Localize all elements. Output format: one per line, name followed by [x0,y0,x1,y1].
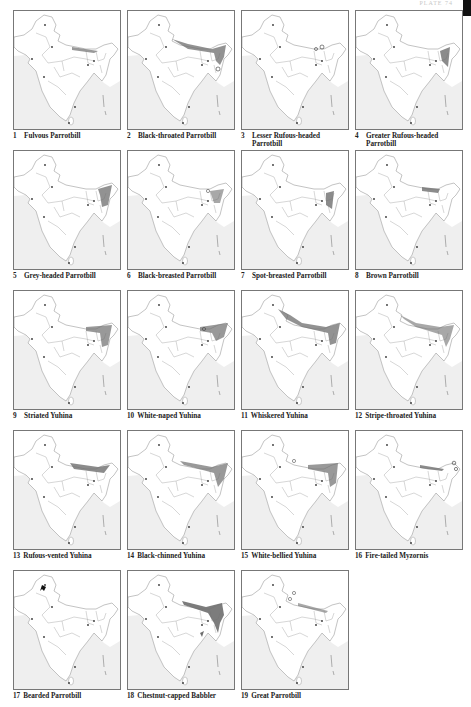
map-cell: 10White-naped Yuhina [127,290,235,421]
distribution-map [355,150,463,270]
map-number: 8 [355,273,364,281]
map-number: 11 [241,413,248,421]
species-name: Grey-headed Parrotbill [24,273,121,281]
species-name: Black-throated Parrotbill [138,133,235,141]
map-number: 4 [355,133,364,148]
distribution-map [355,290,463,410]
map-cell: 19Great Parrotbill [241,570,349,701]
map-cell: 7Spot-breasted Parrotbill [241,150,349,281]
map-cell: 9Striated Yuhina [13,290,121,421]
map-cell: 2Black-throated Parrotbill [127,10,235,141]
species-name: Fire-tailed Myzornis [365,553,463,561]
map-cell: 3Lesser Rufous-headed Parrotbill [241,10,349,148]
species-name: Striated Yuhina [24,413,121,421]
species-name: White-naped Yuhina [137,413,235,421]
map-number: 13 [13,553,20,561]
map-number: 17 [13,693,20,701]
species-name: White-bellied Yuhina [251,553,349,561]
map-cell: 6Black-breasted Parrotbill [127,150,235,281]
species-name: Whiskered Yuhina [251,413,349,421]
map-number: 3 [241,133,250,148]
map-number: 9 [13,413,22,421]
distribution-map [241,570,349,690]
distribution-map [241,290,349,410]
distribution-map [241,10,349,130]
map-cell: 16Fire-tailed Myzornis [355,430,463,561]
distribution-map [127,150,235,270]
distribution-map [355,10,463,130]
map-number: 12 [355,413,362,421]
map-cell: 18Chestnut-capped Babbler [127,570,235,701]
map-cell: 13Rufous-vented Yuhina [13,430,121,561]
species-name: Black-breasted Parrotbill [138,273,235,281]
map-number: 15 [241,553,248,561]
map-number: 14 [127,553,134,561]
species-name: Lesser Rufous-headed Parrotbill [252,133,349,148]
distribution-map [13,290,121,410]
distribution-map [241,430,349,550]
map-cell: 12Stripe-throated Yuhina [355,290,463,421]
distribution-map [355,430,463,550]
map-number: 1 [13,133,22,141]
map-cell: 4Greater Rufous-headed Parrotbill [355,10,463,148]
map-cell: 14Black-chinned Yuhina [127,430,235,561]
map-number: 2 [127,133,136,141]
distribution-map [13,570,121,690]
map-cell: 11Whiskered Yuhina [241,290,349,421]
map-number: 10 [127,413,134,421]
species-name: Black-chinned Yuhina [137,553,235,561]
distribution-map [241,150,349,270]
species-name: Spot-breasted Parrotbill [252,273,349,281]
species-name: Rufous-vented Yuhina [23,553,121,561]
map-cell: 17Bearded Parrotbill [13,570,121,701]
species-name: Great Parrotbill [251,693,349,701]
species-name: Stripe-throated Yuhina [365,413,463,421]
species-name: Bearded Parrotbill [23,693,121,701]
distribution-map [127,290,235,410]
map-number: 6 [127,273,136,281]
map-number: 7 [241,273,250,281]
species-name: Chestnut-capped Babbler [137,693,235,701]
map-number: 18 [127,693,134,701]
map-number: 19 [241,693,248,701]
distribution-map [13,10,121,130]
map-number: 5 [13,273,22,281]
distribution-map [127,10,235,130]
map-cell: 15White-bellied Yuhina [241,430,349,561]
map-number: 16 [355,553,362,561]
distribution-map [13,430,121,550]
map-cell: 1Fulvous Parrotbill [13,10,121,141]
distribution-map [127,570,235,690]
distribution-map [13,150,121,270]
distribution-map [127,430,235,550]
species-name: Fulvous Parrotbill [24,133,121,141]
map-cell: 5Grey-headed Parrotbill [13,150,121,281]
plate-header: PLATE 74 [420,0,454,6]
species-name: Greater Rufous-headed Parrotbill [366,133,463,148]
map-cell: 8Brown Parrotbill [355,150,463,281]
species-name: Brown Parrotbill [366,273,463,281]
corner-thumb-tab [463,0,471,16]
